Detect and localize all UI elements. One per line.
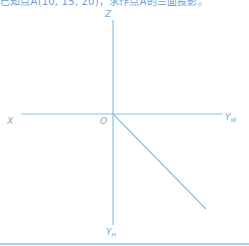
yh-axis-label: YH <box>106 228 116 238</box>
projection-diagram: 已知点A(10, 15, 20)，求作点A的三面投影。 Z X O YW YH <box>0 0 249 246</box>
yw-axis-label: YW <box>225 113 236 123</box>
45-degree-line <box>113 114 206 209</box>
axes-drawing <box>0 0 249 246</box>
x-axis-label: X <box>7 117 13 126</box>
origin-label: O <box>100 117 107 126</box>
z-axis-label: Z <box>105 10 111 19</box>
